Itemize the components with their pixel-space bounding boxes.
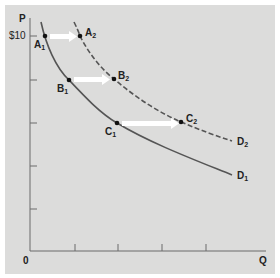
origin-label: 0 (23, 256, 29, 266)
point-b2 (112, 77, 117, 82)
data-points (43, 34, 184, 126)
y-ticks (30, 36, 37, 209)
label-a1: A1 (34, 40, 45, 51)
demand-curve-d1 (41, 22, 232, 175)
label-d1: D1 (237, 171, 248, 182)
label-c1: C1 (105, 127, 116, 138)
label-a2: A2 (85, 28, 96, 39)
x-ticks (75, 244, 206, 251)
label-b2: B2 (118, 71, 129, 82)
label-d2: D2 (237, 137, 248, 148)
label-b1: B1 (57, 84, 68, 95)
arrow-c1-c2 (122, 118, 179, 129)
arrow-a1-a2 (50, 31, 77, 42)
point-a1 (43, 34, 48, 39)
point-c2 (179, 120, 184, 125)
label-c2: C2 (186, 114, 197, 125)
p-axis-label: P (19, 14, 26, 24)
point-a2 (78, 34, 83, 39)
arrow-b1-b2 (74, 74, 110, 85)
q-axis-label: Q (259, 256, 267, 266)
price-tick-label: $10 (9, 31, 26, 41)
point-c1 (115, 121, 120, 126)
point-b1 (67, 78, 72, 83)
